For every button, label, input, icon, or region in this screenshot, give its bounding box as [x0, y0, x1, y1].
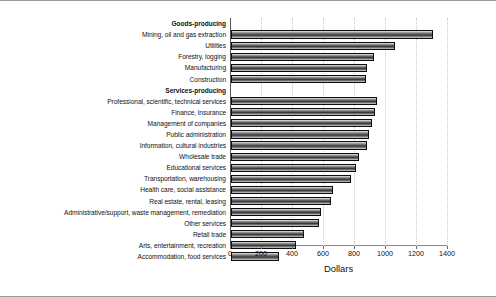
category-label: Retail trade	[0, 229, 226, 240]
figure-frame: Goods-producingMining, oil and gas extra…	[0, 0, 496, 297]
x-tick-label-200: 200	[255, 249, 267, 258]
bar-fill	[231, 64, 367, 72]
bar-fill	[231, 175, 351, 183]
chart-row: Health care, social assistance	[0, 184, 496, 195]
bar	[231, 64, 367, 72]
bar-fill	[231, 130, 369, 138]
bar-fill	[231, 141, 367, 149]
bar	[231, 230, 304, 238]
x-tick-label-1000: 1000	[377, 249, 393, 258]
category-label: Utilities	[0, 40, 226, 51]
x-tick-label-0: 0	[228, 249, 232, 258]
chart-row: Forestry, logging	[0, 51, 496, 62]
bar	[231, 164, 356, 172]
category-label: Educational services	[0, 162, 226, 173]
chart-row: Finance, insurance	[0, 107, 496, 118]
bar-fill	[231, 119, 372, 127]
bar	[231, 75, 366, 83]
bar-fill	[231, 42, 395, 50]
category-label: Accommodation, food services	[0, 251, 226, 262]
bar-fill	[231, 153, 359, 161]
x-tick-label-400: 400	[286, 249, 298, 258]
chart-row: Real estate, rental, leasing	[0, 196, 496, 207]
category-label: Wholesale trade	[0, 151, 226, 162]
bar-fill	[231, 164, 356, 172]
x-axis-title: Dollars	[230, 263, 447, 274]
chart-row: Mining, oil and gas extraction	[0, 29, 496, 40]
x-tick-label-600: 600	[317, 249, 329, 258]
bar	[231, 141, 367, 149]
chart-row: Public administration	[0, 129, 496, 140]
category-label: Transportation, warehousing	[0, 173, 226, 184]
bar	[231, 186, 333, 194]
x-tick-label-1200: 1200	[408, 249, 424, 258]
bar	[231, 30, 433, 38]
chart-row: Educational services	[0, 162, 496, 173]
category-label: Management of companies	[0, 118, 226, 129]
category-label: Services-producing	[0, 85, 226, 96]
category-label: Goods-producing	[0, 18, 226, 29]
bar	[231, 208, 321, 216]
bar-fill	[231, 30, 433, 38]
x-tick-label-1400: 1400	[439, 249, 455, 258]
x-tick-label-800: 800	[348, 249, 360, 258]
category-label: Manufacturing	[0, 62, 226, 73]
bar-fill	[231, 219, 319, 227]
chart-row: Construction	[0, 73, 496, 84]
category-label: Real estate, rental, leasing	[0, 196, 226, 207]
category-label: Mining, oil and gas extraction	[0, 29, 226, 40]
category-label: Administrative/support, waste management…	[0, 207, 226, 218]
bar	[231, 42, 395, 50]
bar	[231, 97, 377, 105]
category-label: Forestry, logging	[0, 51, 226, 62]
bar-fill	[231, 186, 333, 194]
chart-row: Other services	[0, 218, 496, 229]
chart-row: Retail trade	[0, 229, 496, 240]
bar	[231, 53, 374, 61]
bar	[231, 130, 369, 138]
bar-fill	[231, 97, 377, 105]
category-label: Professional, scientific, technical serv…	[0, 96, 226, 107]
chart-row: Utilities	[0, 40, 496, 51]
bar-fill	[231, 230, 304, 238]
chart-row: Management of companies	[0, 118, 496, 129]
chart-row: Professional, scientific, technical serv…	[0, 96, 496, 107]
category-label: Other services	[0, 218, 226, 229]
category-label: Health care, social assistance	[0, 184, 226, 195]
chart-row: Wholesale trade	[0, 151, 496, 162]
bar-fill	[231, 53, 374, 61]
chart-row: Transportation, warehousing	[0, 173, 496, 184]
category-label: Arts, entertainment, recreation	[0, 240, 226, 251]
chart-section-header: Goods-producing	[0, 18, 496, 29]
chart-rows: Goods-producingMining, oil and gas extra…	[0, 18, 496, 246]
bar	[231, 219, 319, 227]
bar	[231, 175, 351, 183]
bar	[231, 197, 331, 205]
chart-row: Administrative/support, waste management…	[0, 207, 496, 218]
chart-section-header: Services-producing	[0, 85, 496, 96]
bar-fill	[231, 108, 375, 116]
bar-chart: Goods-producingMining, oil and gas extra…	[0, 1, 496, 297]
bar-fill	[231, 197, 331, 205]
category-label: Finance, insurance	[0, 107, 226, 118]
bar	[231, 153, 359, 161]
x-axis: 0200400600800100012001400	[230, 246, 447, 260]
category-label: Information, cultural industries	[0, 140, 226, 151]
category-label: Public administration	[0, 129, 226, 140]
category-label: Construction	[0, 74, 226, 85]
bar	[231, 119, 372, 127]
bar-fill	[231, 208, 321, 216]
chart-row: Manufacturing	[0, 62, 496, 73]
chart-row: Information, cultural industries	[0, 140, 496, 151]
bar-fill	[231, 75, 366, 83]
bar	[231, 108, 375, 116]
